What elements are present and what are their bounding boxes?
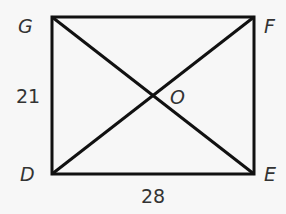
vertex-label-f: F bbox=[264, 15, 276, 37]
vertex-label-d: D bbox=[20, 163, 35, 185]
side-length-gd: 21 bbox=[16, 85, 40, 107]
rectangle-diagram: G F E D O 21 28 bbox=[0, 0, 286, 214]
vertex-label-g: G bbox=[18, 15, 33, 37]
vertex-label-e: E bbox=[264, 163, 276, 185]
side-length-de: 28 bbox=[141, 185, 165, 207]
intersection-label-o: O bbox=[170, 86, 185, 108]
